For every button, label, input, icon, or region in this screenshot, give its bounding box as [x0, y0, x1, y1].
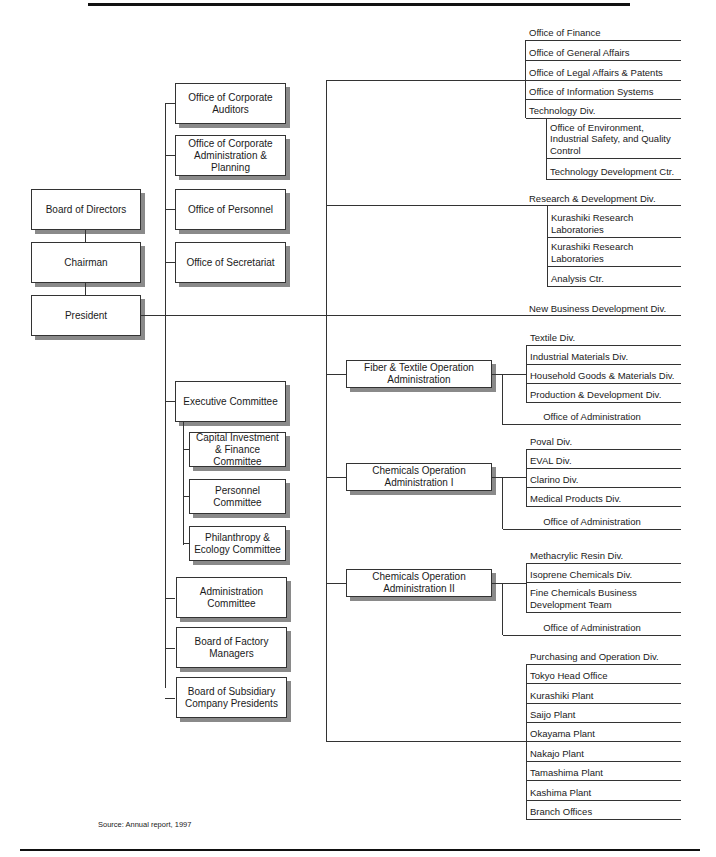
auditors-box: Office of Corporate Auditors [175, 83, 286, 124]
okayama-plant: Okayama Plant [527, 725, 681, 742]
box-label: Office of Secretariat [186, 257, 274, 269]
connector [165, 401, 175, 402]
textile-div: Textile Div. [527, 329, 681, 346]
fiber-office-administration: Office of Administration [503, 408, 681, 425]
medical-products-div: Medical Products Div. [527, 490, 681, 507]
office-finance: Office of Finance [526, 24, 681, 41]
capital-committee-box: Capital Investment & Finance Committee [189, 432, 286, 467]
box-label: Personnel Committee [194, 485, 281, 509]
box-label: Office of Corporate Administration & Pla… [180, 138, 281, 174]
box-label: Executive Committee [183, 396, 277, 408]
bottom-rule [20, 849, 700, 851]
saijo-plant: Saijo Plant [527, 706, 681, 723]
industrial-materials-div: Industrial Materials Div. [527, 348, 681, 365]
corp-branch-line [326, 80, 526, 81]
technology-development-ctr: Technology Development Ctr. [547, 162, 681, 180]
methacrylic-resin-div: Methacrylic Resin Div. [527, 547, 681, 564]
connector [165, 598, 175, 599]
connector [326, 583, 346, 584]
executive-committee-box: Executive Committee [175, 381, 286, 422]
box-label: Chemicals Operation Administration II [351, 571, 487, 595]
top-rule [88, 3, 630, 6]
production-development-div: Production & Development Div. [527, 386, 681, 403]
office-environment: Office of Environment, Industrial Safety… [547, 120, 681, 159]
tokyo-head-office: Tokyo Head Office [527, 667, 681, 684]
subsidiary-presidents-box: Board of Subsidiary Company Presidents [176, 677, 287, 718]
box-label: Board of Factory Managers [181, 636, 282, 660]
kashima-plant: Kashima Plant [527, 784, 681, 801]
office-legal-affairs: Office of Legal Affairs & Patents [526, 64, 681, 81]
box-label: Chairman [64, 257, 107, 269]
box-label: Administration Committee [181, 586, 282, 610]
exec-sub-trunk [183, 422, 184, 545]
fine-chemicals-team: Fine Chemicals Business Development Team [527, 585, 681, 613]
box-label: Capital Investment & Finance Committee [194, 432, 281, 468]
box-label: Philanthropy & Ecology Committee [194, 532, 281, 556]
connector [165, 103, 175, 104]
kurashiki-plant: Kurashiki Plant [527, 687, 681, 704]
connector [492, 374, 526, 375]
chemicals-1-box: Chemicals Operation Administration I [346, 463, 492, 491]
box-label: Board of Subsidiary Company Presidents [181, 686, 282, 710]
analysis-ctr: Analysis Ctr. [548, 268, 681, 287]
president-box: President [31, 295, 141, 336]
administration-committee-box: Administration Committee [176, 577, 287, 618]
secretariat-box: Office of Secretariat [175, 242, 286, 283]
connector [492, 477, 526, 478]
household-goods-div: Household Goods & Materials Div. [527, 367, 681, 384]
board-of-directors-box: Board of Directors [31, 189, 141, 230]
isoprene-chemicals-div: Isoprene Chemicals Div. [527, 566, 681, 583]
connector [165, 155, 175, 156]
office-general-affairs: Office of General Affairs [526, 44, 681, 61]
factory-managers-box: Board of Factory Managers [176, 627, 287, 668]
chem2-office-administration: Office of Administration [503, 618, 681, 636]
personnel-committee-box: Personnel Committee [189, 479, 286, 514]
connector [165, 209, 175, 210]
poval-div: Poval Div. [527, 433, 681, 450]
purch-branch-line [326, 741, 526, 742]
box-label: Fiber & Textile Operation Administration [351, 362, 487, 386]
connector [85, 283, 86, 295]
connector [492, 583, 526, 584]
connector [326, 374, 346, 375]
source-note: Source: Annual report, 1997 [98, 820, 191, 829]
chemicals-2-box: Chemicals Operation Administration II [346, 569, 492, 597]
tamashima-plant: Tamashima Plant [527, 764, 681, 781]
new-business-div: New Business Development Div. [526, 300, 681, 316]
chem1-office-administration: Office of Administration [503, 512, 681, 530]
connector [326, 477, 346, 478]
corp-admin-box: Office of Corporate Administration & Pla… [175, 135, 286, 176]
box-label: Office of Personnel [188, 204, 273, 216]
eval-div: EVAL Div. [527, 452, 681, 469]
box-label: Board of Directors [46, 204, 127, 216]
connector [165, 648, 175, 649]
box-label: President [65, 310, 107, 322]
office-info-systems: Office of Information Systems [526, 83, 681, 100]
philanthropy-committee-box: Philanthropy & Ecology Committee [189, 526, 286, 561]
branch-offices: Branch Offices [527, 803, 681, 820]
box-label: Chemicals Operation Administration I [351, 465, 487, 489]
personnel-office-box: Office of Personnel [175, 189, 286, 230]
connector [165, 262, 175, 263]
rd-div: Research & Development Div. [526, 189, 681, 206]
staff-trunk [165, 103, 166, 688]
rd-underline [526, 205, 681, 206]
connector [165, 698, 175, 699]
nakajo-plant: Nakajo Plant [527, 745, 681, 762]
connector [85, 230, 86, 242]
kurashiki-lab-2: Kurashiki Research Laboratories [548, 239, 681, 267]
clarino-div: Clarino Div. [527, 471, 681, 488]
technology-div: Technology Div. [526, 102, 681, 119]
operations-trunk [326, 80, 327, 742]
kurashiki-lab-1: Kurashiki Research Laboratories [548, 210, 681, 238]
fiber-textile-box: Fiber & Textile Operation Administration [346, 360, 492, 388]
purchasing-div: Purchasing and Operation Div. [527, 648, 681, 665]
box-label: Office of Corporate Auditors [180, 92, 281, 116]
chairman-box: Chairman [31, 242, 141, 283]
rd-branch-line [326, 205, 526, 206]
